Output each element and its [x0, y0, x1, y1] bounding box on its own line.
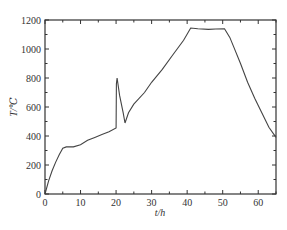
temperature-curve: [45, 28, 276, 194]
plot-frame: [45, 20, 276, 194]
y-tick-label: 1000: [21, 44, 41, 55]
y-tick-label: 1200: [21, 15, 41, 26]
y-tick-label: 0: [36, 189, 41, 200]
y-tick-label: 400: [26, 131, 41, 142]
y-tick-label: 800: [26, 73, 41, 84]
x-tick-label: 60: [253, 197, 263, 208]
tick-labels: 0102030405060020040060080010001200: [21, 15, 263, 209]
x-axis-label: t/h: [155, 207, 166, 218]
axis-ticks: [45, 20, 276, 194]
x-tick-label: 10: [76, 197, 86, 208]
y-tick-label: 600: [26, 102, 41, 113]
temperature-time-chart: 0102030405060020040060080010001200 t/h T…: [0, 0, 287, 230]
x-tick-label: 20: [111, 197, 121, 208]
x-tick-label: 40: [182, 197, 192, 208]
y-axis-label: T/℃: [8, 97, 19, 117]
x-tick-label: 0: [43, 197, 48, 208]
x-tick-label: 50: [218, 197, 228, 208]
y-tick-label: 200: [26, 160, 41, 171]
